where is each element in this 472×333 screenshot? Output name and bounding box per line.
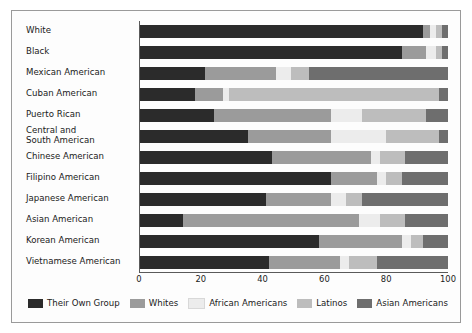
bar-segment <box>140 88 195 101</box>
bar-segment <box>248 130 331 143</box>
bar-segment <box>140 214 183 227</box>
bar-segment <box>362 193 448 206</box>
bar-segment <box>380 214 405 227</box>
bar-segment <box>442 25 448 38</box>
bar-segment <box>423 235 448 248</box>
bar-segment <box>140 25 423 38</box>
bar-row <box>140 214 448 227</box>
bar-row <box>140 193 448 206</box>
legend-item: Whites <box>130 298 178 308</box>
bar-segment <box>439 88 448 101</box>
bar-segment <box>205 67 276 80</box>
x-tick-label: 100 <box>440 274 456 284</box>
bar-segment <box>362 109 427 122</box>
bar-segment <box>195 88 223 101</box>
x-tick-label: 40 <box>257 274 268 284</box>
bar-segment <box>276 67 291 80</box>
category-label: Filipino American <box>26 173 100 183</box>
bar-row <box>140 88 448 101</box>
bar-segment <box>272 151 371 164</box>
bar-segment <box>140 151 272 164</box>
bar-segment <box>331 109 362 122</box>
bar-segment <box>377 172 386 185</box>
bar-segment <box>402 172 448 185</box>
x-tick-label: 80 <box>381 274 392 284</box>
x-tick-label: 60 <box>319 274 330 284</box>
legend-swatch <box>357 299 372 308</box>
category-label: Vietnamese American <box>26 257 121 267</box>
legend-label: Their Own Group <box>47 298 120 308</box>
chart-inner: WhiteBlackMexican AmericanCuban American… <box>12 11 460 322</box>
bar-row <box>140 235 448 248</box>
bar-segment <box>405 214 448 227</box>
bar-segment <box>426 109 448 122</box>
legend-item: Latinos <box>297 298 347 308</box>
bar-segment <box>405 151 448 164</box>
bar-segment <box>402 46 427 59</box>
bar-segment <box>331 130 386 143</box>
legend-label: Latinos <box>316 298 347 308</box>
category-label: Central and South American <box>26 126 95 145</box>
bar-segment <box>340 256 349 269</box>
category-label: Black <box>26 47 49 57</box>
bar-segment <box>183 214 359 227</box>
bar-row <box>140 256 448 269</box>
bar-segment <box>411 235 423 248</box>
x-axis-ticks: 020406080100 <box>139 274 448 288</box>
plot-area <box>139 21 448 273</box>
bar-segment <box>442 46 448 59</box>
bar-segment <box>229 88 438 101</box>
x-tick-label: 0 <box>136 274 141 284</box>
x-tick-label: 20 <box>195 274 206 284</box>
bar-row <box>140 172 448 185</box>
category-label: Asian American <box>26 215 93 225</box>
legend-swatch <box>188 298 205 309</box>
bar-segment <box>266 193 331 206</box>
bar-segment <box>359 214 381 227</box>
bar-row <box>140 67 448 80</box>
chart-figure: WhiteBlackMexican AmericanCuban American… <box>11 10 461 323</box>
bar-segment <box>380 151 405 164</box>
bar-segment <box>439 130 448 143</box>
bar-row <box>140 25 448 38</box>
bar-segment <box>402 235 411 248</box>
bar-segment <box>349 256 377 269</box>
bar-segment <box>269 256 340 269</box>
bar-segment <box>386 172 401 185</box>
stacked-bar-chart: WhiteBlackMexican AmericanCuban American… <box>26 21 448 283</box>
bar-segment <box>291 67 309 80</box>
legend-label: African Americans <box>209 298 287 308</box>
category-label: Korean American <box>26 236 99 246</box>
bar-row <box>140 151 448 164</box>
bar-segment <box>140 193 266 206</box>
legend-item: Their Own Group <box>28 298 120 308</box>
category-label: Cuban American <box>26 89 97 99</box>
bar-segment <box>140 235 319 248</box>
bar-segment <box>319 235 402 248</box>
legend-item: Asian Americans <box>357 298 448 308</box>
bar-segment <box>214 109 331 122</box>
bar-segment <box>377 256 448 269</box>
bar-segment <box>309 67 448 80</box>
legend-label: Whites <box>149 298 178 308</box>
bar-segment <box>140 67 205 80</box>
bar-segment <box>331 172 377 185</box>
legend-swatch <box>297 299 312 308</box>
bar-segment <box>426 46 435 59</box>
legend-swatch <box>130 299 145 308</box>
legend-label: Asian Americans <box>376 298 448 308</box>
bar-segment <box>140 256 269 269</box>
bar-segment <box>386 130 438 143</box>
category-label: Mexican American <box>26 68 105 78</box>
category-label: Chinese American <box>26 152 104 162</box>
category-label: White <box>26 26 51 36</box>
legend-swatch <box>28 299 43 308</box>
bar-segment <box>140 130 248 143</box>
bar-row <box>140 46 448 59</box>
bar-segment <box>371 151 380 164</box>
category-label: Puerto Rican <box>26 110 80 120</box>
bar-segment <box>140 109 214 122</box>
bar-segment <box>346 193 361 206</box>
bar-segment <box>140 46 402 59</box>
chart-legend: Their Own GroupWhitesAfrican AmericansLa… <box>28 296 448 310</box>
